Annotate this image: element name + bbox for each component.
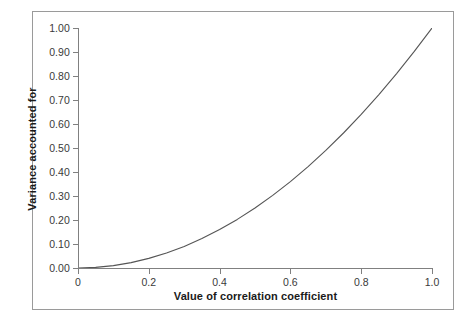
x-tick-label: 0.8 [336,276,386,288]
x-tick-label: 0.4 [195,276,245,288]
y-axis-title-wrapper: Variance accounted for [26,29,42,269]
x-axis-title: Value of correlation coefficient [78,290,433,302]
x-tick-mark [78,269,79,274]
variance-curve [78,28,432,268]
y-tick-mark [73,244,78,245]
y-axis-title: Variance accounted for [26,29,38,269]
x-tick-label: 0 [53,276,103,288]
y-axis-line [78,28,79,269]
x-tick-label: 1.0 [407,276,457,288]
x-tick-label: 0.2 [124,276,174,288]
x-tick-mark [290,269,291,274]
y-tick-mark [73,148,78,149]
x-tick-mark [220,269,221,274]
y-tick-mark [73,220,78,221]
y-tick-mark [73,100,78,101]
y-tick-mark [73,76,78,77]
y-tick-mark [73,124,78,125]
x-tick-label: 0.6 [265,276,315,288]
y-tick-mark [73,172,78,173]
chart-figure: 0.000.100.200.300.400.500.600.700.800.90… [0,0,464,323]
x-tick-mark [361,269,362,274]
y-tick-mark [73,28,78,29]
y-tick-mark [73,196,78,197]
x-tick-mark [432,269,433,274]
plot-area [78,28,432,268]
x-tick-mark [149,269,150,274]
x-axis-line [78,268,433,269]
curve-svg [78,28,432,268]
y-tick-mark [73,52,78,53]
